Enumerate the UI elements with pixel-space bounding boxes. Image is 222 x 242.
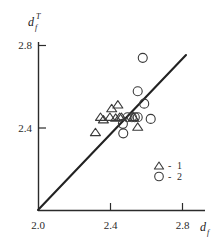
series-1 [90, 101, 142, 136]
chart-canvas: 2.8 2.4 2.0 2.4 2.8 d f T d f - 1 [0, 0, 222, 242]
legend-circle-icon [155, 172, 164, 181]
x-axis-title-subscript: f [207, 228, 211, 237]
data-point-2-8 [140, 99, 149, 108]
y-tick-label-2.4: 2.4 [18, 122, 32, 134]
y-axis-title-subscript: f [35, 23, 39, 32]
legend-entry-1: - 1 [154, 160, 182, 171]
identity-reference-line [38, 55, 186, 210]
data-point-2-6 [133, 87, 142, 96]
legend-triangle-icon [154, 162, 163, 169]
y-axis-title: d f T [28, 12, 41, 32]
data-point-1-10 [133, 123, 143, 130]
x-tick-label-2.4: 2.4 [104, 219, 118, 231]
x-tick-label-2.8: 2.8 [176, 219, 190, 231]
y-axis-title-superscript: T [36, 12, 41, 21]
legend-label-1: 1 [177, 160, 182, 171]
origin-tick-label-2.0: 2.0 [31, 219, 45, 231]
y-axis-title-base: d [28, 15, 35, 29]
y-tick-label-2.8: 2.8 [18, 39, 32, 51]
data-point-2-7 [138, 53, 147, 62]
data-point-1-0 [90, 128, 100, 135]
data-point-1-6 [113, 101, 123, 108]
data-point-2-1 [119, 129, 128, 138]
scatter-chart-figure: 2.8 2.4 2.0 2.4 2.8 d f T d f - 1 [0, 0, 222, 242]
data-markers-group [90, 53, 155, 137]
legend-label-2: 2 [177, 171, 182, 182]
chart-legend: - 1 - 2 [154, 160, 182, 182]
legend-entry-2: - 2 [155, 171, 182, 182]
x-axis-title-base: d [200, 220, 207, 234]
legend-separator-2: - [168, 171, 171, 182]
x-axis-title: d f [200, 220, 211, 237]
legend-separator-1: - [168, 160, 171, 171]
data-point-2-9 [146, 114, 155, 123]
